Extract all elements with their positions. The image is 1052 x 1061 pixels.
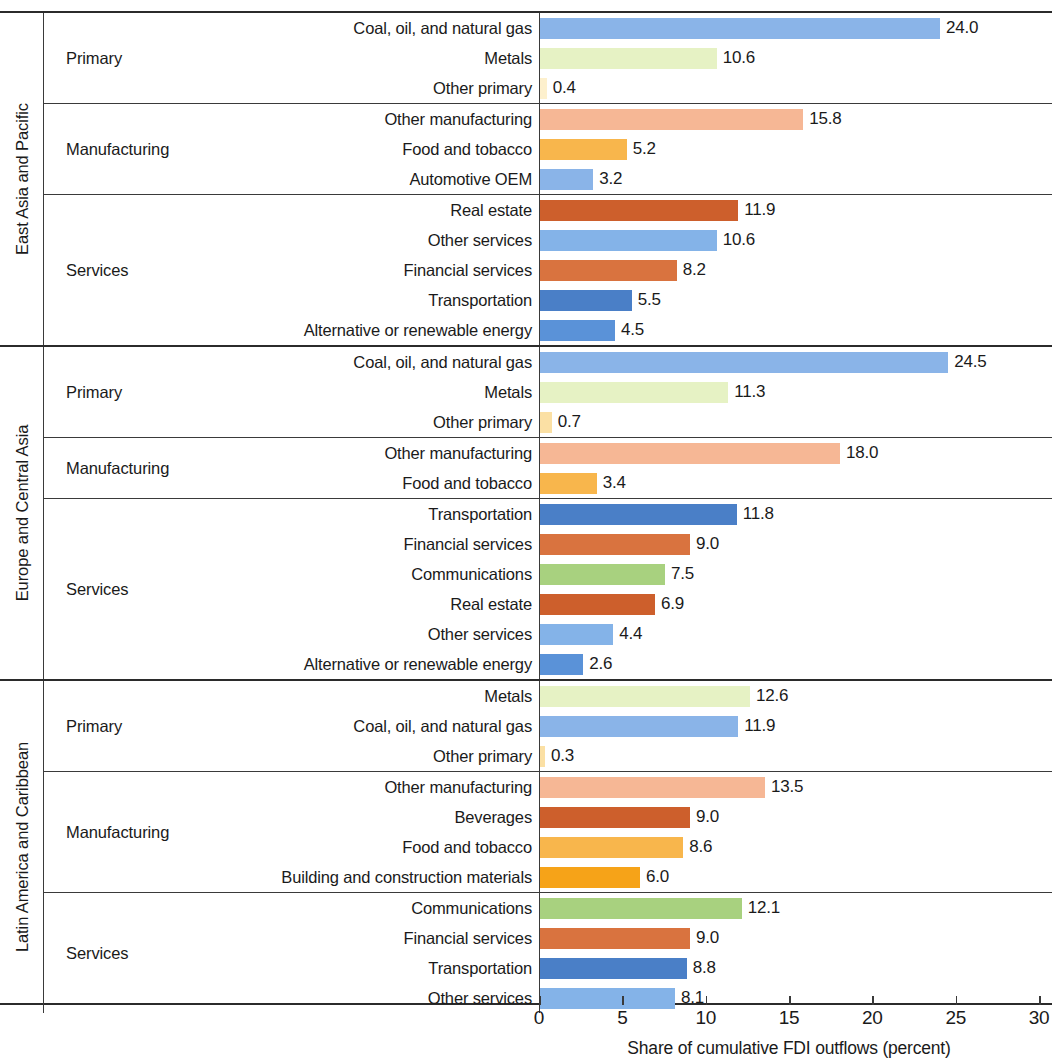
bar-area: 11.3 — [539, 377, 1052, 407]
bar — [540, 352, 948, 373]
bar — [540, 807, 690, 828]
bar-area: 2.6 — [539, 649, 1052, 679]
sector-group: PrimaryCoal, oil, and natural gas24.0Met… — [44, 13, 1052, 103]
sector-group: PrimaryCoal, oil, and natural gas24.5Met… — [44, 347, 1052, 437]
category-label: Other manufacturing — [196, 110, 539, 129]
bar-row: Communications7.5 — [196, 559, 1052, 589]
bar-area: 12.1 — [539, 893, 1052, 923]
category-label: Other primary — [196, 747, 539, 766]
bar — [540, 624, 613, 645]
category-label: Automotive OEM — [196, 170, 539, 189]
sector-label: Primary — [44, 13, 196, 103]
region-label-text: East Asia and Pacific — [12, 103, 31, 255]
bar-value-label: 9.0 — [690, 807, 719, 827]
bar-row: Coal, oil, and natural gas24.5 — [196, 347, 1052, 377]
bar — [540, 867, 640, 888]
category-label: Food and tobacco — [196, 838, 539, 857]
axis-tick — [789, 996, 791, 1005]
bar — [540, 260, 677, 281]
bar-row: Transportation5.5 — [196, 285, 1052, 315]
category-label: Coal, oil, and natural gas — [196, 19, 539, 38]
bar-area: 8.8 — [539, 953, 1052, 983]
category-label: Building and construction materials — [196, 868, 539, 887]
category-label: Food and tobacco — [196, 140, 539, 159]
category-label: Real estate — [196, 201, 539, 220]
sector-rows: Real estate11.9Other services10.6Financi… — [196, 195, 1052, 345]
bar — [540, 594, 655, 615]
category-label: Other services — [196, 625, 539, 644]
x-axis-title: Share of cumulative FDI outflows (percen… — [539, 1038, 1039, 1059]
category-label: Metals — [196, 687, 539, 706]
bar-value-label: 8.8 — [687, 958, 716, 978]
axis-tick — [956, 996, 958, 1005]
bar-value-label: 0.4 — [547, 78, 576, 98]
bar-row: Other primary0.4 — [196, 73, 1052, 103]
category-label: Food and tobacco — [196, 474, 539, 493]
bar-value-label: 24.0 — [940, 18, 978, 38]
bar-area: 6.9 — [539, 589, 1052, 619]
category-label: Coal, oil, and natural gas — [196, 717, 539, 736]
category-label: Other primary — [196, 413, 539, 432]
sector-label: Primary — [44, 347, 196, 437]
bar-value-label: 2.6 — [583, 654, 612, 674]
category-label: Other manufacturing — [196, 444, 539, 463]
bar-area: 4.4 — [539, 619, 1052, 649]
bar-row: Coal, oil, and natural gas24.0 — [196, 13, 1052, 43]
bar-row: Metals10.6 — [196, 43, 1052, 73]
region-section: East Asia and PacificPrimaryCoal, oil, a… — [0, 13, 1052, 345]
bar — [540, 777, 765, 798]
region-section: Europe and Central AsiaPrimaryCoal, oil,… — [0, 345, 1052, 679]
bar-row: Food and tobacco3.4 — [196, 468, 1052, 498]
bar — [540, 200, 738, 221]
bar-row: Financial services9.0 — [196, 923, 1052, 953]
fdi-outflows-bar-chart: East Asia and PacificPrimaryCoal, oil, a… — [0, 0, 1052, 1061]
bar-value-label: 6.0 — [640, 867, 669, 887]
bar-area: 10.6 — [539, 43, 1052, 73]
bar-value-label: 3.2 — [593, 169, 622, 189]
bar-row: Metals12.6 — [196, 681, 1052, 711]
bar-area: 6.0 — [539, 862, 1052, 892]
bar-area: 18.0 — [539, 438, 1052, 468]
bar-value-label: 3.4 — [597, 473, 626, 493]
bar-row: Other primary0.7 — [196, 407, 1052, 437]
axis-tick — [622, 996, 624, 1005]
bar-value-label: 11.9 — [738, 716, 775, 736]
category-label: Financial services — [196, 535, 539, 554]
bar-row: Building and construction materials6.0 — [196, 862, 1052, 892]
category-label: Alternative or renewable energy — [196, 655, 539, 674]
region-section: Latin America and CaribbeanPrimaryMetals… — [0, 679, 1052, 1013]
bar-value-label: 11.9 — [738, 200, 775, 220]
sector-label: Services — [44, 499, 196, 679]
bar-area: 4.5 — [539, 315, 1052, 345]
bar-row: Financial services9.0 — [196, 529, 1052, 559]
bar-area: 13.5 — [539, 772, 1052, 802]
category-label: Other manufacturing — [196, 778, 539, 797]
bar-value-label: 10.6 — [717, 48, 755, 68]
bar-area: 5.5 — [539, 285, 1052, 315]
bar-area: 24.0 — [539, 13, 1052, 43]
category-label: Metals — [196, 49, 539, 68]
bar-value-label: 5.2 — [627, 139, 656, 159]
region-label: Latin America and Caribbean — [0, 681, 44, 1013]
bar-value-label: 4.5 — [615, 320, 644, 340]
axis-tick-label: 0 — [534, 1007, 544, 1029]
bar — [540, 412, 552, 433]
bar-value-label: 24.5 — [948, 352, 986, 372]
bar-value-label: 0.3 — [545, 746, 574, 766]
category-label: Beverages — [196, 808, 539, 827]
bar — [540, 230, 717, 251]
category-label: Other services — [196, 231, 539, 250]
bar-value-label: 4.4 — [613, 624, 642, 644]
category-label: Transportation — [196, 291, 539, 310]
sector-rows: Other manufacturing13.5Beverages9.0Food … — [196, 772, 1052, 892]
region-label-text: Europe and Central Asia — [12, 425, 31, 602]
region-label-text: Latin America and Caribbean — [12, 742, 31, 952]
bar-area: 5.2 — [539, 134, 1052, 164]
sector-group: ServicesReal estate11.9Other services10.… — [44, 194, 1052, 345]
region-body: PrimaryCoal, oil, and natural gas24.0Met… — [44, 13, 1052, 345]
axis-tick-label: 30 — [1029, 1007, 1050, 1029]
bar-value-label: 18.0 — [840, 443, 878, 463]
bar-area: 9.0 — [539, 802, 1052, 832]
bar — [540, 290, 632, 311]
bar-row: Alternative or renewable energy2.6 — [196, 649, 1052, 679]
